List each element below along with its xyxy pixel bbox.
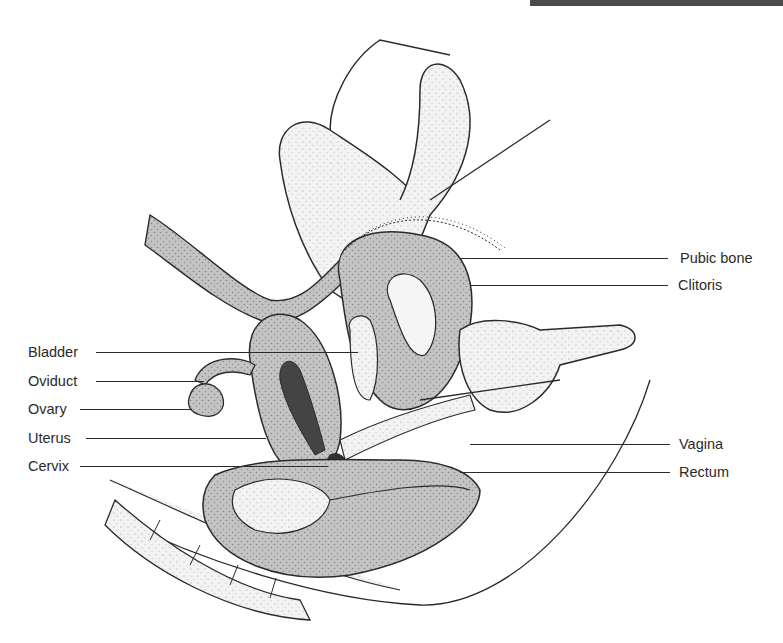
anatomy-illustration	[0, 0, 783, 643]
label-clitoris: Clitoris	[678, 277, 722, 293]
leader-oviduct	[96, 381, 204, 382]
label-pubic-bone: Pubic bone	[680, 250, 753, 266]
label-oviduct: Oviduct	[28, 373, 77, 389]
leader-uterus	[86, 438, 266, 439]
leader-clitoris	[470, 285, 668, 286]
label-vagina: Vagina	[679, 436, 723, 452]
label-bladder: Bladder	[28, 344, 78, 360]
leader-rectum	[460, 472, 670, 473]
label-uterus: Uterus	[28, 430, 71, 446]
leader-bladder	[96, 352, 358, 353]
leader-cervix	[80, 466, 328, 467]
label-ovary: Ovary	[28, 401, 67, 417]
leader-pubic-bone	[460, 258, 668, 259]
oviduct-shape	[195, 359, 255, 385]
leader-ovary	[80, 409, 192, 410]
label-rectum: Rectum	[679, 464, 729, 480]
leader-vagina	[470, 444, 670, 445]
ovary-shape	[188, 384, 223, 417]
label-cervix: Cervix	[28, 458, 69, 474]
